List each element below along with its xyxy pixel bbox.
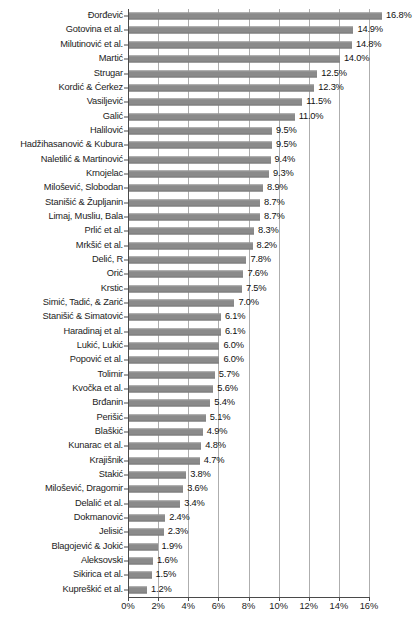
bar-value-label: 9.4% [275, 155, 295, 164]
bar [129, 299, 234, 306]
bar-row: Strugar12.5% [0, 66, 417, 80]
bar-value-label: 1.5% [156, 571, 176, 580]
bar-value-label: 9.5% [276, 141, 296, 150]
bar [129, 70, 317, 77]
y-axis-tick [124, 288, 128, 289]
bar-value-label: 3.6% [187, 485, 207, 494]
category-label: Milošević, Dragomir [45, 485, 123, 494]
bar-value-label: 5.7% [219, 370, 239, 379]
y-axis-tick [124, 331, 128, 332]
bar-row: Stakić3.8% [0, 468, 417, 482]
y-axis-tick [124, 575, 128, 576]
y-axis-tick [124, 561, 128, 562]
bar [129, 558, 153, 565]
y-axis-tick [124, 460, 128, 461]
bar [129, 256, 246, 263]
y-axis-tick [124, 417, 128, 418]
bar-row: Kordić & Ćerkez12.3% [0, 81, 417, 95]
y-axis-tick [124, 145, 128, 146]
bar-value-label: 14.9% [357, 26, 382, 35]
y-axis-tick [124, 73, 128, 74]
bar-row: Blagojević & Jokić1.9% [0, 540, 417, 554]
bar-value-label: 1.2% [151, 585, 171, 594]
category-label: Halilović [90, 126, 123, 135]
bar-value-label: 7.8% [250, 255, 270, 264]
bar-value-label: 8.7% [264, 212, 284, 221]
y-axis-tick [124, 245, 128, 246]
bar-value-label: 11.0% [299, 112, 324, 121]
y-axis-tick [124, 259, 128, 260]
x-axis-tick-label: 2% [151, 602, 164, 611]
bar-value-label: 6.1% [225, 313, 245, 322]
bar [129, 27, 353, 34]
bar [129, 572, 152, 579]
y-axis-tick [124, 403, 128, 404]
category-label: Hadžihasanović & Kubura [20, 141, 123, 150]
bar-row: Gotovina et al.14.9% [0, 23, 417, 37]
bar [129, 156, 271, 163]
bar-row: Dokmanović2.4% [0, 511, 417, 525]
y-axis-tick [124, 188, 128, 189]
bar-value-label: 8.2% [257, 241, 277, 250]
bar-value-label: 4.7% [204, 456, 224, 465]
bar [129, 400, 210, 407]
bar-row: Krstic7.5% [0, 281, 417, 295]
bar-value-label: 12.3% [318, 83, 343, 92]
bar-value-label: 4.9% [207, 427, 227, 436]
bar-row: Halilović9.5% [0, 124, 417, 138]
y-axis-tick [124, 173, 128, 174]
y-axis-tick [124, 102, 128, 103]
category-label: Kupreškić et al. [62, 585, 123, 594]
bar [129, 228, 254, 235]
y-axis-tick [124, 489, 128, 490]
bar-row: Naletilić & Martinović9.4% [0, 152, 417, 166]
bar-row: Sikirica et al.1.5% [0, 568, 417, 582]
category-label: Krnojelac [86, 169, 123, 178]
bar-row: Haradinaj et al.6.1% [0, 325, 417, 339]
bar [129, 500, 180, 507]
bar-value-label: 7.6% [247, 270, 267, 279]
bar-row: Brđanin5.4% [0, 396, 417, 410]
bar-row: Đorđević16.8% [0, 9, 417, 23]
y-axis-tick [124, 30, 128, 31]
bar-row: Kupreškić et al.1.2% [0, 583, 417, 597]
bar-value-label: 2.3% [168, 528, 188, 537]
bar-row: Delalić et al.3.4% [0, 497, 417, 511]
category-label: Stanišić & Župljanin [45, 198, 123, 207]
bar-row: Milošević, Slobodan8.9% [0, 181, 417, 195]
category-label: Milošević, Slobodan [44, 184, 123, 193]
bar [129, 457, 200, 464]
y-axis-tick [124, 216, 128, 217]
x-axis-tick-label: 0% [121, 602, 134, 611]
y-axis-tick [124, 87, 128, 88]
bar-row: Hadžihasanović & Kubura9.5% [0, 138, 417, 152]
bar-row: Perišić5.1% [0, 411, 417, 425]
bar [129, 586, 147, 593]
bar [129, 13, 382, 20]
y-axis-tick [124, 274, 128, 275]
bar-value-label: 6.0% [223, 341, 243, 350]
bar-value-label: 14.8% [356, 40, 381, 49]
bar-row: Jelisić2.3% [0, 525, 417, 539]
category-label: Stakić [99, 470, 123, 479]
category-label: Vasiljević [87, 98, 123, 107]
category-label: Milutinović et al. [60, 40, 123, 49]
bar [129, 170, 269, 177]
category-label: Limaj, Musliu, Bala [49, 212, 124, 221]
y-axis-tick [124, 159, 128, 160]
bar-value-label: 1.9% [162, 542, 182, 551]
y-axis-tick [124, 546, 128, 547]
y-axis-tick [124, 432, 128, 433]
bar [129, 529, 164, 536]
y-axis-tick [124, 202, 128, 203]
category-label: Orić [107, 270, 123, 279]
y-axis-tick [124, 346, 128, 347]
y-axis-tick [124, 317, 128, 318]
category-label: Blaškić [95, 427, 123, 436]
x-axis-tick-label: 6% [212, 602, 225, 611]
bar-row: Krnojelac9.3% [0, 167, 417, 181]
bar [129, 213, 260, 220]
bar-value-label: 4.8% [205, 442, 225, 451]
category-label: Lukić, Lukić [77, 341, 123, 350]
bar-value-label: 3.4% [184, 499, 204, 508]
